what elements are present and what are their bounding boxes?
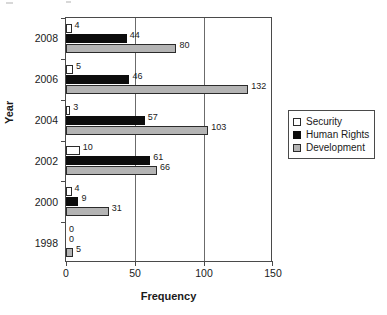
bar-value-label: 44 bbox=[130, 31, 140, 40]
bar-value-label: 61 bbox=[153, 153, 163, 162]
bar-development[interactable] bbox=[66, 166, 157, 175]
bar-value-label: 9 bbox=[81, 194, 86, 203]
bar-value-label: 31 bbox=[112, 204, 122, 213]
x-axis-tick-label: 150 bbox=[264, 268, 282, 279]
bar-value-label: 5 bbox=[76, 62, 81, 71]
x-axis-tick-label: 50 bbox=[129, 268, 141, 279]
bar-value-label: 46 bbox=[132, 72, 142, 81]
legend-swatch-development-icon bbox=[293, 144, 301, 152]
x-axis-tick bbox=[135, 261, 136, 266]
y-axis-tick bbox=[61, 18, 66, 19]
plot-area: 050100150 444805461323571031061664931005… bbox=[65, 17, 272, 262]
scan-artifact bbox=[6, 2, 13, 4]
x-axis-tick bbox=[204, 261, 205, 266]
y-axis-label-2008: 2008 bbox=[35, 33, 58, 44]
legend-label-development: Development bbox=[306, 143, 365, 153]
x-axis-tick-label: 100 bbox=[195, 268, 213, 279]
x-axis-tick bbox=[272, 261, 273, 266]
bar-development[interactable] bbox=[66, 248, 73, 257]
y-axis-tick bbox=[61, 100, 66, 101]
legend-label-human-rights: Human Rights bbox=[306, 130, 369, 140]
bar-value-label: 80 bbox=[179, 41, 189, 50]
bar-value-label: 0 bbox=[69, 225, 74, 234]
bar-human-rights[interactable] bbox=[66, 197, 78, 206]
bar-human-rights[interactable] bbox=[66, 75, 129, 84]
bar-value-label: 57 bbox=[148, 113, 158, 122]
y-axis-title: Year bbox=[3, 101, 15, 124]
y-axis-label-2006: 2006 bbox=[35, 74, 58, 85]
y-axis-label-2000: 2000 bbox=[35, 197, 58, 208]
bar-human-rights[interactable] bbox=[66, 34, 127, 43]
bar-development[interactable] bbox=[66, 85, 248, 94]
gridline bbox=[204, 18, 205, 261]
gridline bbox=[135, 18, 136, 261]
legend-swatch-security-icon bbox=[293, 118, 301, 126]
legend-swatch-human-rights-icon bbox=[293, 131, 301, 139]
bar-development[interactable] bbox=[66, 126, 208, 135]
y-axis-label-2004: 2004 bbox=[35, 115, 58, 126]
bar-value-label: 132 bbox=[251, 82, 266, 91]
y-axis-tick bbox=[61, 141, 66, 142]
x-axis-tick-label: 0 bbox=[63, 268, 69, 279]
bar-value-label: 5 bbox=[76, 245, 81, 254]
bar-security[interactable] bbox=[66, 106, 70, 115]
bar-value-label: 4 bbox=[75, 184, 80, 193]
y-axis-label-1998: 1998 bbox=[35, 238, 58, 249]
bar-development[interactable] bbox=[66, 207, 109, 216]
legend-item-development[interactable]: Development bbox=[293, 141, 369, 154]
bar-development[interactable] bbox=[66, 44, 176, 53]
scan-artifact bbox=[66, 1, 71, 3]
bar-human-rights[interactable] bbox=[66, 116, 145, 125]
y-axis-tick bbox=[61, 59, 66, 60]
legend-label-security: Security bbox=[306, 117, 342, 127]
bar-value-label: 3 bbox=[73, 103, 78, 112]
bar-security[interactable] bbox=[66, 146, 80, 155]
bar-value-label: 66 bbox=[160, 163, 170, 172]
bar-human-rights[interactable] bbox=[66, 156, 150, 165]
chart-legend: Security Human Rights Development bbox=[288, 110, 375, 159]
y-axis-tick bbox=[61, 222, 66, 223]
x-axis-tick bbox=[66, 261, 67, 266]
bar-chart-figure: Year 050100150 4448054613235710310616649… bbox=[0, 0, 387, 315]
bar-value-label: 4 bbox=[75, 21, 80, 30]
legend-item-human-rights[interactable]: Human Rights bbox=[293, 128, 369, 141]
bar-value-label: 10 bbox=[83, 143, 93, 152]
legend-item-security[interactable]: Security bbox=[293, 115, 369, 128]
bar-security[interactable] bbox=[66, 187, 72, 196]
y-axis-tick bbox=[61, 181, 66, 182]
bar-security[interactable] bbox=[66, 65, 73, 74]
bar-security[interactable] bbox=[66, 24, 72, 33]
bar-value-label: 0 bbox=[69, 235, 74, 244]
x-axis-title: Frequency bbox=[65, 290, 272, 302]
bar-value-label: 103 bbox=[211, 123, 226, 132]
y-axis-label-2002: 2002 bbox=[35, 156, 58, 167]
